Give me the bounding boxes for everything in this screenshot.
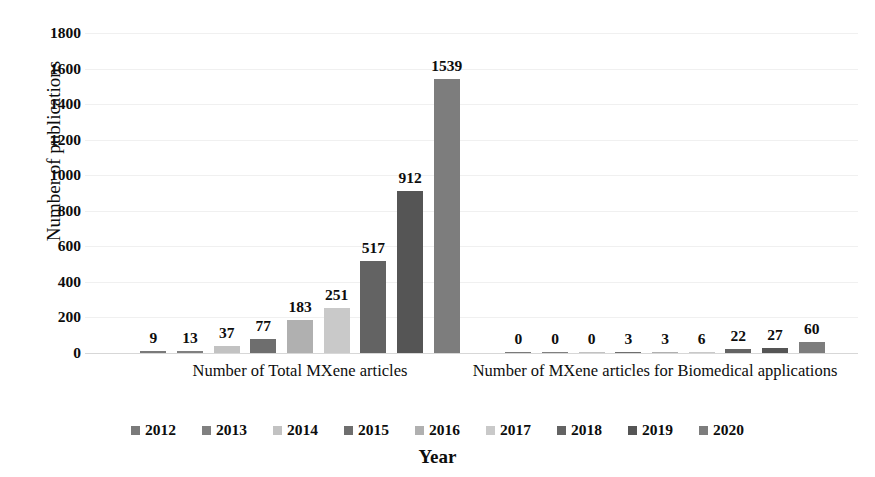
bar-value-label: 6 <box>698 330 706 348</box>
bar[interactable] <box>762 348 788 353</box>
bar-group-1-2020[interactable]: 1539 <box>434 33 460 353</box>
bar-value-label: 77 <box>256 317 272 335</box>
bar-group-2-2016[interactable]: 3 <box>652 33 678 353</box>
bar[interactable] <box>542 352 568 353</box>
y-axis-tick-label: 400 <box>25 273 81 291</box>
bar-value-label: 0 <box>588 330 596 348</box>
bar-group-2-2019[interactable]: 27 <box>762 33 788 353</box>
bar-group-1-2014[interactable]: 37 <box>214 33 240 353</box>
legend-swatch-icon <box>699 426 708 435</box>
bar[interactable] <box>214 346 240 353</box>
category-labels: Number of Total MXene articlesNumber of … <box>85 360 858 406</box>
legend-label: 2016 <box>429 421 460 439</box>
legend-item-2018[interactable]: 2018 <box>557 421 602 439</box>
bar-value-label: 13 <box>182 329 198 347</box>
legend-swatch-icon <box>202 426 211 435</box>
legend-item-2015[interactable]: 2015 <box>344 421 389 439</box>
bar-group-1-2013[interactable]: 13 <box>177 33 203 353</box>
bar[interactable] <box>397 191 423 353</box>
legend: 201220132014201520162017201820192020 <box>0 421 875 439</box>
legend-label: 2014 <box>287 421 318 439</box>
bar-value-label: 517 <box>362 239 385 257</box>
legend-swatch-icon <box>486 426 495 435</box>
bar-value-label: 0 <box>514 330 522 348</box>
bar[interactable] <box>250 339 276 353</box>
bar-value-label: 37 <box>219 324 235 342</box>
category-label: Number of Total MXene articles <box>105 360 495 382</box>
bar-value-label: 3 <box>624 330 632 348</box>
y-axis-tick-label: 800 <box>25 202 81 220</box>
legend-item-2014[interactable]: 2014 <box>273 421 318 439</box>
legend-label: 2017 <box>500 421 531 439</box>
y-axis-tick-label: 1400 <box>25 95 81 113</box>
bar[interactable] <box>689 352 715 353</box>
bar-value-label: 183 <box>288 298 311 316</box>
bar-value-label: 9 <box>149 329 157 347</box>
bar-value-label: 912 <box>398 169 421 187</box>
y-axis-tick-label: 600 <box>25 237 81 255</box>
bar-group-1-2018[interactable]: 517 <box>360 33 386 353</box>
bar-group-2-2014[interactable]: 0 <box>579 33 605 353</box>
legend-label: 2019 <box>642 421 673 439</box>
y-axis-tick-labels: 180016001400120010008006004002000 <box>25 33 81 353</box>
bar-value-label: 60 <box>804 320 820 338</box>
legend-item-2012[interactable]: 2012 <box>131 421 176 439</box>
legend-item-2020[interactable]: 2020 <box>699 421 744 439</box>
y-axis-tick-label: 200 <box>25 308 81 326</box>
bar[interactable] <box>140 351 166 353</box>
bar-chart: Number of publications 18001600140012001… <box>0 0 875 477</box>
bar[interactable] <box>652 352 678 353</box>
bar[interactable] <box>434 79 460 353</box>
bar-group-2-2020[interactable]: 60 <box>799 33 825 353</box>
legend-item-2016[interactable]: 2016 <box>415 421 460 439</box>
y-axis-tick-label: 1800 <box>25 24 81 42</box>
bar-value-label: 3 <box>661 330 669 348</box>
legend-swatch-icon <box>344 426 353 435</box>
bar-group-1-2012[interactable]: 9 <box>140 33 166 353</box>
y-axis-tick-label: 1200 <box>25 131 81 149</box>
legend-label: 2012 <box>145 421 176 439</box>
legend-label: 2013 <box>216 421 247 439</box>
legend-swatch-icon <box>557 426 566 435</box>
legend-label: 2020 <box>713 421 744 439</box>
bar[interactable] <box>324 308 350 353</box>
legend-item-2013[interactable]: 2013 <box>202 421 247 439</box>
legend-swatch-icon <box>628 426 637 435</box>
bar-value-label: 27 <box>767 326 783 344</box>
legend-item-2017[interactable]: 2017 <box>486 421 531 439</box>
legend-swatch-icon <box>273 426 282 435</box>
bar[interactable] <box>287 320 313 353</box>
bar[interactable] <box>360 261 386 353</box>
bar-group-2-2017[interactable]: 6 <box>689 33 715 353</box>
bar[interactable] <box>725 349 751 353</box>
category-label: Number of MXene articles for Biomedical … <box>455 360 855 382</box>
legend-label: 2015 <box>358 421 389 439</box>
bar[interactable] <box>505 352 531 353</box>
bar-value-label: 22 <box>731 327 747 345</box>
y-axis-tick-label: 1000 <box>25 166 81 184</box>
bar-value-label: 1539 <box>431 57 462 75</box>
legend-label: 2018 <box>571 421 602 439</box>
x-axis-title: Year <box>0 446 875 468</box>
bar-value-label: 251 <box>325 286 348 304</box>
bar-group-1-2017[interactable]: 251 <box>324 33 350 353</box>
bar-group-1-2016[interactable]: 183 <box>287 33 313 353</box>
legend-item-2019[interactable]: 2019 <box>628 421 673 439</box>
bar[interactable] <box>615 352 641 353</box>
bars-layer: 91337771832515179121539000336222760 <box>85 33 858 353</box>
y-axis-tick-label: 0 <box>25 344 81 362</box>
bar-group-1-2019[interactable]: 912 <box>397 33 423 353</box>
y-axis-tick-label: 1600 <box>25 60 81 78</box>
bar-group-2-2015[interactable]: 3 <box>615 33 641 353</box>
bar-group-1-2015[interactable]: 77 <box>250 33 276 353</box>
plot-area: 91337771832515179121539000336222760 <box>85 33 858 353</box>
bar-group-2-2013[interactable]: 0 <box>542 33 568 353</box>
bar[interactable] <box>799 342 825 353</box>
bar[interactable] <box>177 351 203 353</box>
legend-swatch-icon <box>415 426 424 435</box>
bar-group-2-2018[interactable]: 22 <box>725 33 751 353</box>
bar-group-2-2012[interactable]: 0 <box>505 33 531 353</box>
bar[interactable] <box>579 352 605 353</box>
bar-value-label: 0 <box>551 330 559 348</box>
legend-swatch-icon <box>131 426 140 435</box>
